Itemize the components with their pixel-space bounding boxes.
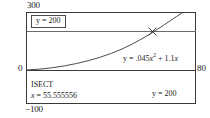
intersection-x-variable: x (31, 91, 35, 100)
reference-line-equation-text: y = 200 (36, 16, 61, 25)
intersection-readout: ISECT x = 55.555556 (31, 80, 77, 102)
reference-line-y200 (27, 31, 196, 32)
reference-line-equation-box: y = 200 (31, 15, 66, 28)
x-axis (26, 70, 196, 71)
intersection-x-readout: x = 55.555556 (31, 91, 77, 102)
x-min-label: 0 (18, 64, 23, 73)
y-axis (26, 12, 27, 104)
curve-equation-suffix: + 1.1 (156, 54, 175, 63)
curve-equation-label: y = .045x2 + 1.1x (122, 55, 179, 63)
curve-equation-prefix: y = .045 (123, 54, 150, 63)
y-min-label: −100 (25, 105, 43, 114)
intersection-title: ISECT (31, 80, 77, 91)
y-max-label: 300 (27, 1, 40, 10)
calculator-screen: 300 y = 200 y = .045x2 + 1.1x 0 80 ISECT… (0, 0, 210, 118)
curve-equation-variable-2: x (175, 54, 179, 63)
footer-equation-label: y = 200 (152, 90, 177, 98)
x-max-label: 80 (197, 64, 206, 73)
intersection-x-value: = 55.555556 (37, 91, 78, 100)
